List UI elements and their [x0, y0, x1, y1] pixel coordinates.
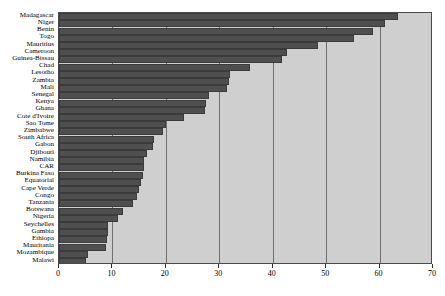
bar-ethiopa: [59, 236, 107, 243]
x-tick-mark-70: [432, 264, 433, 268]
bar-cote-d-ivoire: [59, 114, 184, 121]
bar-row: [59, 150, 432, 157]
bar-seychelles: [59, 222, 108, 229]
bar-row: [59, 157, 432, 164]
bar-mali: [59, 85, 227, 92]
bar-row: [59, 20, 432, 27]
bar-row: [59, 64, 432, 71]
bar-row: [59, 222, 432, 229]
bar-row: [59, 28, 432, 35]
bar-row: [59, 56, 432, 63]
x-tick-label-40: 40: [268, 269, 276, 279]
bar-row: [59, 49, 432, 56]
bar-gabon: [59, 143, 153, 150]
bar-equatorial: [59, 179, 141, 186]
x-tick-label-60: 60: [375, 269, 383, 279]
bar-row: [59, 236, 432, 243]
x-axis-tick-labels: 010203040506070: [58, 269, 432, 283]
x-tick-mark-0: [58, 264, 59, 268]
x-tick-mark-40: [272, 264, 273, 268]
category-label: Malawi: [32, 257, 54, 264]
plot-area: [58, 12, 432, 264]
bar-zimbabwe: [59, 128, 163, 135]
bar-row: [59, 121, 432, 128]
bar-row: [59, 229, 432, 236]
bar-row: [59, 143, 432, 150]
x-tick-label-50: 50: [321, 269, 329, 279]
bar-niger: [59, 20, 385, 27]
bar-row: [59, 251, 432, 258]
bar-row: [59, 13, 432, 20]
bar-row: [59, 215, 432, 222]
bar-row: [59, 114, 432, 121]
bar-cape-verde: [59, 186, 139, 193]
bar-row: [59, 92, 432, 99]
x-tick-label-30: 30: [214, 269, 222, 279]
bar-namibia: [59, 157, 144, 164]
bar-cameroon: [59, 49, 287, 56]
bar-mauritania: [59, 244, 106, 251]
bar-row: [59, 172, 432, 179]
bar-togo: [59, 35, 354, 42]
x-tick-mark-60: [379, 264, 380, 268]
x-tick-label-70: 70: [428, 269, 436, 279]
bar-lesotho: [59, 71, 230, 78]
bar-nigeria: [59, 215, 118, 222]
chart-container: MadagascarNigerBeninTogoMauritiusCameroo…: [0, 0, 445, 296]
bar-row: [59, 71, 432, 78]
x-tick-mark-50: [325, 264, 326, 268]
bar-zambia: [59, 78, 229, 85]
bar-sao-tome: [59, 121, 166, 128]
bar-mauritius: [59, 42, 318, 49]
bar-guinea-bissau: [59, 56, 282, 63]
bar-row: [59, 179, 432, 186]
bar-row: [59, 42, 432, 49]
x-tick-mark-20: [165, 264, 166, 268]
bar-row: [59, 200, 432, 207]
bar-row: [59, 186, 432, 193]
bar-row: [59, 35, 432, 42]
bar-row: [59, 244, 432, 251]
bar-row: [59, 208, 432, 215]
x-tick-label-10: 10: [107, 269, 115, 279]
bar-congo: [59, 193, 137, 200]
bar-senegal: [59, 92, 209, 99]
bar-chad: [59, 64, 250, 71]
bar-row: [59, 107, 432, 114]
bar-gambia: [59, 229, 108, 236]
bar-kenya: [59, 100, 206, 107]
bar-south-africa: [59, 136, 154, 143]
bar-series: [59, 13, 431, 263]
bar-row: [59, 136, 432, 143]
x-tick-mark-10: [111, 264, 112, 268]
bar-row: [59, 164, 432, 171]
bar-row: [59, 78, 432, 85]
bar-burkina-faso: [59, 172, 143, 179]
bar-mozambique: [59, 251, 88, 258]
bar-car: [59, 164, 144, 171]
bar-row: [59, 100, 432, 107]
bar-tanzania: [59, 200, 133, 207]
x-tick-label-20: 20: [161, 269, 169, 279]
x-tick-mark-30: [218, 264, 219, 268]
bar-ghana: [59, 107, 205, 114]
y-axis-category-labels: MadagascarNigerBeninTogoMauritiusCameroo…: [0, 12, 56, 264]
bar-row: [59, 193, 432, 200]
bar-row: [59, 85, 432, 92]
bar-djibouti: [59, 150, 147, 157]
bar-madagascar: [59, 13, 398, 20]
bar-benin: [59, 28, 373, 35]
bar-row: [59, 128, 432, 135]
x-tick-label-0: 0: [56, 269, 60, 279]
bar-botswana: [59, 208, 123, 215]
